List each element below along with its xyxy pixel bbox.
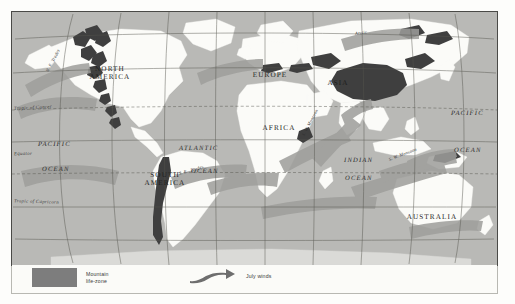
screenshot-root: NORTH AMERICA SOUTH AMERICA EUROPE AFRIC… [0, 0, 515, 304]
legend-label-mountain-life-zone: Mountain life-zone [86, 271, 109, 284]
wind-arrow-icon [188, 268, 236, 284]
legend-label-july-winds: July winds [246, 273, 271, 279]
mountain-life-zone-swatch [32, 268, 77, 287]
legend-item-mountain-life-zone: Mountain life-zone [32, 268, 109, 287]
world-map: NORTH AMERICA SOUTH AMERICA EUROPE AFRIC… [11, 11, 498, 294]
legend-item-july-winds: July winds [188, 268, 271, 284]
map-graphic [11, 11, 498, 294]
legend: Mountain life-zone July winds [12, 265, 497, 293]
